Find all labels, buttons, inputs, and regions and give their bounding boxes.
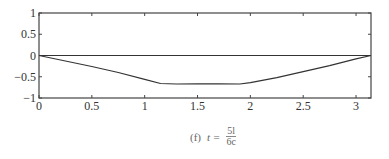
x-tick-label: 2 xyxy=(247,99,253,113)
y-tick-label: −0.5 xyxy=(14,70,36,84)
caption-lhs: t = xyxy=(207,131,220,143)
x-tick-labels: 00.511.522.53 xyxy=(36,99,359,113)
y-tick-label: 1 xyxy=(30,6,36,20)
figure-caption: (f) t = 5l 6c xyxy=(190,126,236,147)
x-tick-label: 1 xyxy=(142,99,148,113)
series-curve xyxy=(39,56,371,85)
caption-denominator: 6c xyxy=(226,137,235,147)
y-tick-labels: 10.50−0.5−1 xyxy=(14,6,36,105)
y-tick-label: 0 xyxy=(30,49,36,63)
x-tick-label: 2.5 xyxy=(296,99,311,113)
x-tick-label: 0 xyxy=(36,99,42,113)
data-series xyxy=(39,56,371,85)
caption-fraction: 5l 6c xyxy=(226,126,236,147)
caption-label: (f) xyxy=(190,131,201,143)
y-tick-label: 0.5 xyxy=(21,27,36,41)
y-tick-label: −1 xyxy=(23,91,36,105)
x-tick-label: 1.5 xyxy=(190,99,205,113)
x-tick-label: 3 xyxy=(353,99,359,113)
x-tick-label: 0.5 xyxy=(84,99,99,113)
